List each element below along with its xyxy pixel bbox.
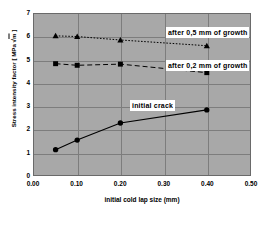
data-point-marker (75, 137, 80, 142)
x-axis-ticks: 0.000.100.200.300.400.50 (33, 180, 251, 190)
series-annotation-0: after 0,5 mm of growth (166, 27, 249, 38)
series-line-2 (56, 110, 207, 150)
y-tick-label: 0 (4, 172, 30, 179)
y-axis-label-radicand: m (10, 33, 17, 39)
series-layer (34, 14, 250, 175)
data-point-marker (53, 147, 58, 152)
data-point-marker (75, 63, 80, 68)
data-point-marker (53, 33, 59, 38)
x-tick-label: 0.00 (16, 180, 50, 187)
data-point-marker (204, 107, 209, 112)
x-tick-label: 0.50 (234, 180, 262, 187)
x-axis-label: initial cold lap size (mm) (33, 196, 251, 203)
data-point-marker (53, 61, 58, 66)
x-tick-label: 0.30 (147, 180, 181, 187)
y-axis-label-prefix: Stress intensity factor [ MPa (10, 42, 17, 127)
series-annotation-2: initial crack (130, 100, 175, 111)
y-tick-label: 7 (4, 9, 30, 16)
y-axis-label-suffix: ] (10, 30, 17, 34)
radical-icon: √ (10, 39, 17, 42)
chart-figure: 01234567 0.000.100.200.300.400.50 initia… (0, 0, 262, 225)
series-annotation-1: after 0,2 mm of growth (166, 60, 249, 71)
y-tick-label: 6 (4, 32, 30, 39)
y-tick-label: 3 (4, 102, 30, 109)
y-tick-label: 4 (4, 79, 30, 86)
y-axis-label: Stress intensity factor [ MPa √m ] (10, 4, 17, 154)
y-tick-label: 2 (4, 125, 30, 132)
y-tick-label: 5 (4, 56, 30, 63)
x-tick-label: 0.10 (60, 180, 94, 187)
data-point-marker (118, 62, 123, 67)
x-tick-label: 0.20 (103, 180, 137, 187)
x-tick-label: 0.40 (190, 180, 224, 187)
data-point-marker (118, 120, 123, 125)
y-tick-label: 1 (4, 149, 30, 156)
